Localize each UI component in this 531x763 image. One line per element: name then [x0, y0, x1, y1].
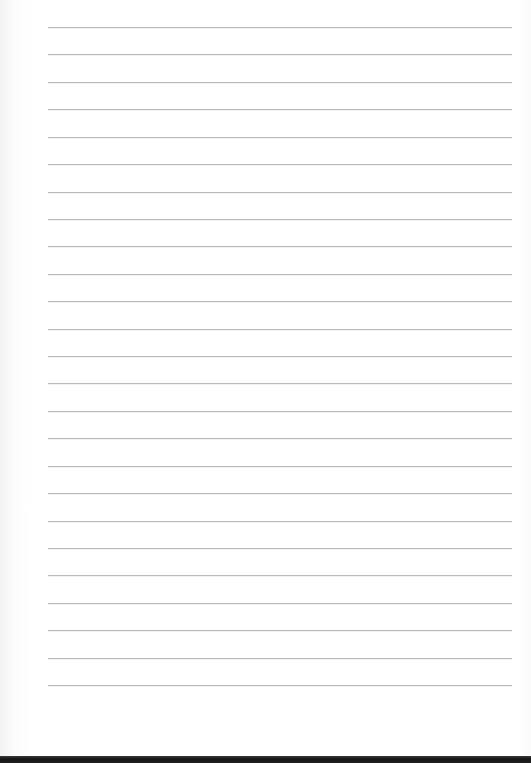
ruled-line	[48, 219, 512, 220]
ruled-line	[48, 466, 512, 467]
ruled-line	[48, 383, 512, 384]
ruled-line	[48, 329, 512, 330]
ruled-line	[48, 164, 512, 165]
ruled-line	[48, 109, 512, 110]
ruled-line	[48, 137, 512, 138]
ruled-line	[48, 575, 512, 576]
lined-paper-sheet	[0, 0, 531, 756]
ruled-line	[48, 246, 512, 247]
page-bottom-edge	[0, 756, 531, 763]
ruled-line	[48, 521, 512, 522]
ruled-line	[48, 493, 512, 494]
ruled-line	[48, 27, 512, 28]
ruled-line	[48, 658, 512, 659]
ruled-line	[48, 356, 512, 357]
ruled-line	[48, 685, 512, 686]
ruled-line	[48, 192, 512, 193]
ruled-line	[48, 438, 512, 439]
ruled-line	[48, 274, 512, 275]
ruled-line	[48, 548, 512, 549]
ruled-line	[48, 82, 512, 83]
ruled-line	[48, 630, 512, 631]
ruled-line	[48, 411, 512, 412]
ruled-line	[48, 54, 512, 55]
ruled-line	[48, 301, 512, 302]
ruled-line	[48, 603, 512, 604]
